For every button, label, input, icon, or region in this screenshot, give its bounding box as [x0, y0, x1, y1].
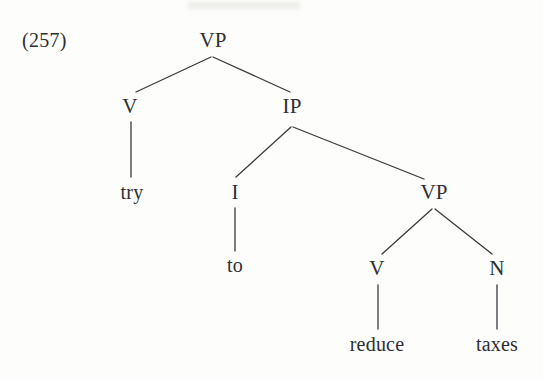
- tree-terminal-taxes: taxes: [476, 334, 518, 354]
- tree-node-n: N: [489, 258, 504, 279]
- tree-edge-vp-root-to-v-upper: [136, 57, 211, 92]
- tree-terminal-to: to: [227, 255, 243, 275]
- tree-node-ip: IP: [282, 96, 301, 117]
- tree-node-v-upper: V: [122, 96, 137, 117]
- tree-terminal-try: try: [121, 182, 144, 202]
- tree-node-v-lower: V: [369, 258, 384, 279]
- tree-edge-vp-root-to-ip: [213, 57, 290, 92]
- tree-edge-ip-to-i: [236, 127, 291, 177]
- tree-edge-ip-to-vp-lower: [293, 127, 424, 179]
- tree-edge-vp-lower-to-v-lower: [382, 209, 432, 254]
- tree-node-vp-root: VP: [199, 30, 226, 51]
- syntax-tree-figure: (257) VPVIPtryIVPtoVNreducetaxes: [0, 0, 543, 380]
- tree-edge-vp-lower-to-n: [435, 209, 492, 254]
- tree-terminal-reduce: reduce: [350, 334, 405, 354]
- tree-node-i: I: [231, 182, 238, 203]
- tree-node-vp-lower: VP: [420, 182, 447, 203]
- tree-branches: [0, 0, 543, 380]
